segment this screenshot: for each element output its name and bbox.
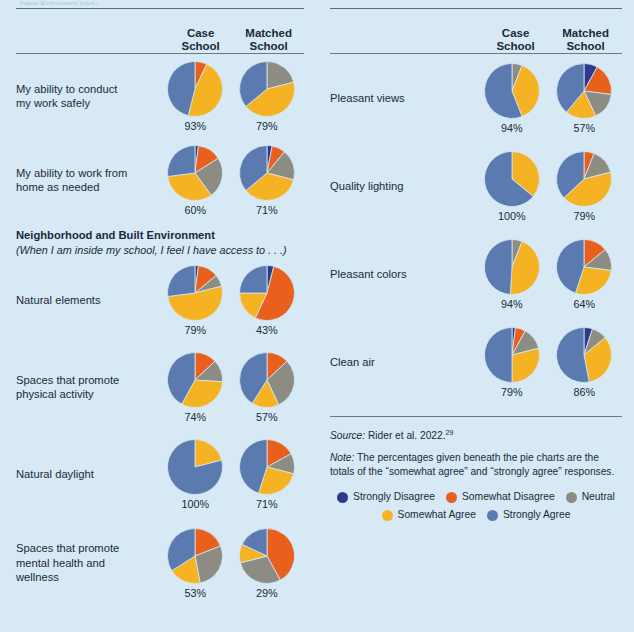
- row-label-line: Quality lighting: [330, 179, 477, 194]
- row-label-line: Natural elements: [16, 293, 161, 308]
- chart-row: My ability to conductmy work safely93%79…: [16, 54, 304, 138]
- pie-percentage-matched-school: 79%: [573, 210, 595, 222]
- pie-percentage-case-school: 79%: [184, 324, 206, 336]
- row-label-line: my work safely: [16, 96, 161, 111]
- pie-chart-matched-school: [239, 528, 295, 584]
- pie-cell-matched-school: 71%: [230, 439, 304, 510]
- legend-swatch-icon: [487, 510, 498, 521]
- pie-cell-matched-school: 64%: [547, 239, 622, 310]
- pie-chart-matched-school: [556, 63, 612, 119]
- pie-chart-matched-school: [239, 265, 295, 321]
- pie-cell-case-school: 53%: [161, 528, 230, 599]
- pie-chart-matched-school: [239, 145, 295, 201]
- right-top-spacer: [330, 0, 622, 8]
- pie-percentage-case-school: 100%: [498, 210, 526, 222]
- pie-cell-matched-school: 86%: [547, 327, 622, 398]
- pie-chart-matched-school: [239, 61, 295, 117]
- note-label: Note:: [330, 452, 354, 463]
- continued-heading: Indoor Environment (cont.): [16, 0, 304, 8]
- header-matched-school: Matched School: [233, 27, 304, 53]
- pie-slice-strongly-agree: [168, 145, 195, 176]
- pie-chart-case-school: [484, 151, 540, 207]
- row-label: Quality lighting: [330, 179, 477, 194]
- row-label: Clean air: [330, 355, 477, 370]
- pie-chart-case-school: [167, 528, 223, 584]
- pie-cell-case-school: 93%: [161, 61, 230, 132]
- pie-percentage-matched-school: 57%: [256, 411, 278, 423]
- pie-slice-strongly-agree: [239, 265, 267, 293]
- legend-label: Strongly Disagree: [353, 490, 435, 505]
- row-label: Spaces that promotemental health andwell…: [16, 541, 161, 585]
- pie-percentage-matched-school: 71%: [256, 498, 278, 510]
- row-label-line: Spaces that promote: [16, 373, 161, 388]
- pie-chart-matched-school: [556, 151, 612, 207]
- pie-percentage-matched-school: 57%: [573, 122, 595, 134]
- row-label-line: Pleasant views: [330, 91, 477, 106]
- note-text: The percentages given beneath the pie ch…: [330, 452, 614, 478]
- pie-percentage-case-school: 93%: [184, 120, 206, 132]
- right-header-row: Case School Matched School: [330, 9, 622, 53]
- pie-percentage-case-school: 94%: [501, 122, 523, 134]
- pie-percentage-case-school: 74%: [184, 411, 206, 423]
- chart-row: Pleasant colors94%64%: [330, 230, 622, 318]
- pie-percentage-case-school: 79%: [501, 386, 523, 398]
- legend-label: Somewhat Agree: [398, 508, 476, 523]
- left-rows: My ability to conductmy work safely93%79…: [16, 54, 304, 609]
- pie-percentage-matched-school: 43%: [256, 324, 278, 336]
- legend-item: Strongly Agree: [487, 508, 571, 523]
- pie-cell-matched-school: 43%: [230, 265, 304, 336]
- pie-percentage-matched-school: 71%: [256, 204, 278, 216]
- pie-slice-strongly-agree: [484, 327, 512, 382]
- row-label: My ability to conductmy work safely: [16, 82, 161, 111]
- legend-label: Somewhat Disagree: [462, 490, 555, 505]
- pie-percentage-matched-school: 29%: [256, 587, 278, 599]
- chart-row: Clean air79%86%: [330, 318, 622, 406]
- pie-cell-case-school: 100%: [161, 439, 230, 510]
- legend-item: Strongly Disagree: [337, 490, 435, 505]
- legend-label: Neutral: [582, 490, 615, 505]
- legend-row-1: Strongly DisagreeSomewhat DisagreeNeutra…: [330, 490, 622, 505]
- chart-row: Spaces that promotephysical activity74%5…: [16, 343, 304, 431]
- pie-chart-matched-school: [556, 327, 612, 383]
- pie-slice-strongly-agree: [557, 327, 590, 382]
- pie-slice-strongly-agree: [484, 239, 512, 294]
- pie-cell-matched-school: 79%: [547, 151, 622, 222]
- pie-cell-case-school: 79%: [161, 265, 230, 336]
- pie-percentage-matched-school: 86%: [573, 386, 595, 398]
- pie-slice-strongly-agree: [168, 265, 195, 296]
- header-case-school-right: Case School: [482, 27, 549, 53]
- pie-percentage-matched-school: 79%: [256, 120, 278, 132]
- pie-cell-case-school: 94%: [477, 63, 547, 134]
- source-text: Rider et al. 2022.: [365, 430, 445, 441]
- pie-cell-matched-school: 57%: [230, 352, 304, 423]
- legend-row-2: Somewhat AgreeStrongly Agree: [330, 508, 622, 523]
- pie-cell-case-school: 94%: [477, 239, 547, 310]
- row-label: Spaces that promotephysical activity: [16, 373, 161, 402]
- row-label-line: wellness: [16, 570, 161, 585]
- pie-cell-case-school: 74%: [161, 352, 230, 423]
- pie-chart-case-school: [484, 327, 540, 383]
- left-header-row: Case School Matched School: [16, 9, 304, 53]
- legend: Strongly DisagreeSomewhat DisagreeNeutra…: [330, 490, 622, 523]
- row-label: My ability to work fromhome as needed: [16, 166, 161, 195]
- pie-chart-case-school: [167, 61, 223, 117]
- pie-cell-case-school: 79%: [477, 327, 547, 398]
- section-title: Neighborhood and Built Environment: [16, 228, 304, 242]
- legend-item: Neutral: [566, 490, 615, 505]
- legend-swatch-icon: [566, 492, 577, 503]
- row-label-line: Pleasant colors: [330, 267, 477, 282]
- chart-row: Natural elements79%43%: [16, 257, 304, 343]
- pie-cell-matched-school: 29%: [230, 528, 304, 599]
- pie-percentage-case-school: 60%: [184, 204, 206, 216]
- row-label-line: mental health and: [16, 556, 161, 571]
- section-heading: Neighborhood and Built Environment(When …: [16, 228, 304, 257]
- row-label: Natural daylight: [16, 467, 161, 482]
- pie-cell-case-school: 100%: [477, 151, 547, 222]
- figure-page: Indoor Environment (cont.) Case School M…: [0, 0, 634, 632]
- pie-chart-matched-school: [239, 439, 295, 495]
- legend-item: Somewhat Disagree: [446, 490, 555, 505]
- legend-swatch-icon: [382, 510, 393, 521]
- divider-above-footer: [330, 416, 622, 417]
- pie-chart-case-school: [167, 439, 223, 495]
- row-label-line: Spaces that promote: [16, 541, 161, 556]
